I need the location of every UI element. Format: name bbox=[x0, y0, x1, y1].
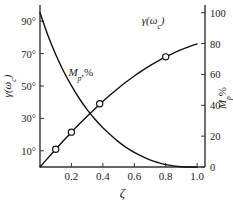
x-tick-label: 1.0 bbox=[190, 170, 204, 182]
curve-mp bbox=[40, 13, 197, 167]
y-left-tick-label: 30° bbox=[21, 113, 36, 124]
x-tick-label: 0.4 bbox=[96, 170, 110, 182]
chart-canvas: 0.20.40.60.81.010°30°50°70°90°0204060801… bbox=[0, 0, 233, 203]
y-left-axis-title: γ(ωc) bbox=[1, 74, 18, 97]
y-left-tick-label: 90° bbox=[21, 16, 36, 27]
data-point-marker bbox=[68, 129, 74, 135]
mp-curve-label: Mp,% bbox=[67, 66, 93, 83]
y-left-tick-label: 10° bbox=[21, 146, 36, 157]
curve-gamma bbox=[40, 44, 197, 167]
y-right-tick-label: 100 bbox=[210, 8, 226, 19]
data-point-marker bbox=[163, 54, 169, 60]
x-tick-label: 0.6 bbox=[127, 170, 141, 182]
data-point-marker bbox=[97, 101, 103, 107]
y-right-tick-label: 60 bbox=[210, 69, 221, 80]
chart-figure: 0.20.40.60.81.010°30°50°70°90°0204060801… bbox=[0, 0, 233, 203]
y-right-axis-title: Mp% bbox=[216, 87, 233, 110]
x-tick-label: 0.8 bbox=[159, 170, 173, 182]
data-point-marker bbox=[53, 146, 59, 152]
x-axis-title: ζ bbox=[120, 185, 126, 200]
y-right-tick-label: 80 bbox=[210, 39, 221, 50]
y-right-tick-label: 0 bbox=[210, 162, 215, 173]
y-left-tick-label: 70° bbox=[21, 49, 36, 60]
y-right-tick-label: 20 bbox=[210, 131, 221, 142]
gamma-curve-label: γ(ωc) bbox=[142, 14, 165, 31]
y-left-tick-label: 50° bbox=[21, 81, 36, 92]
x-tick-label: 0.2 bbox=[65, 170, 79, 182]
